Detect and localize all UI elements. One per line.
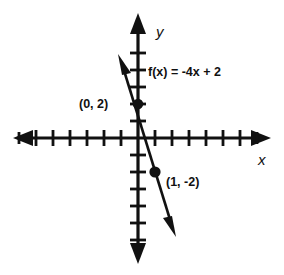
y-axis-label: y — [156, 24, 164, 39]
x-axis-arrow-right — [251, 130, 271, 146]
function-line-arrow-up — [118, 54, 131, 75]
y-axis-arrow-down — [130, 243, 146, 264]
function-line — [122, 64, 172, 226]
function-equation-label: f(x) = -4x + 2 — [148, 66, 221, 79]
point-label-y-intercept: (0, 2) — [79, 98, 108, 111]
y-axis-arrow-up — [130, 13, 146, 34]
graph-figure: y x f(x) = -4x + 2 (0, 2) (1, -2) — [0, 0, 284, 275]
point-marker-y-intercept — [133, 99, 143, 109]
point-label-second: (1, -2) — [166, 176, 199, 189]
point-marker-second — [149, 166, 160, 177]
function-line-arrow-down — [163, 216, 176, 237]
coordinate-plane-svg — [0, 0, 284, 275]
x-axis-label: x — [258, 152, 266, 167]
x-axis-arrow-left — [13, 130, 33, 146]
